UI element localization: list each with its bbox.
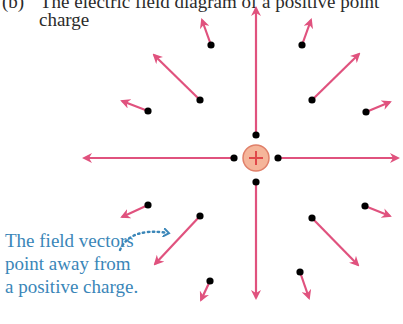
field-vector-upper-right-long [312,54,359,100]
field-point-right [274,154,281,161]
field-vector-lower-right-short-bottom [300,272,309,298]
field-vector-lower-right-long [312,218,358,265]
field-vector-upper-right-short-side [366,102,390,112]
field-vector-lower-left-long [155,216,200,264]
field-point-lower-right-short-bottom [296,268,303,275]
positive-charge [243,145,269,171]
field-vector-lower-right-short-side [365,206,390,216]
field-point-left [230,154,237,161]
field-point-upper-right-short-top [298,41,305,48]
field-point-upper-left-short-top [207,41,214,48]
field-point-upper-left-short-side [144,107,151,114]
field-point-up [252,131,259,138]
field-point-lower-left-short-bottom [206,277,213,284]
field-point-lower-left-short-side [144,201,151,208]
field-vector-upper-left-short-top [202,20,211,45]
caption-line-2: point away from [5,252,138,275]
field-point-lower-right-short-side [361,202,368,209]
field-vector-upper-right-short-top [302,20,311,45]
field-point-upper-left-long [196,96,203,103]
caption-line-3: a positive charge. [5,275,138,298]
field-vector-upper-left-long [154,55,200,100]
caption: The field vectors point away from a posi… [5,229,138,298]
field-point-lower-left-long [196,212,203,219]
field-vector-upper-left-short-side [122,101,148,111]
field-point-lower-right-long [308,214,315,221]
field-point-down [252,178,259,185]
field-point-upper-right-long [308,96,315,103]
field-vector-lower-left-short-side [122,205,148,217]
caption-line-1: The field vectors [5,229,138,252]
field-point-upper-right-short-side [362,108,369,115]
